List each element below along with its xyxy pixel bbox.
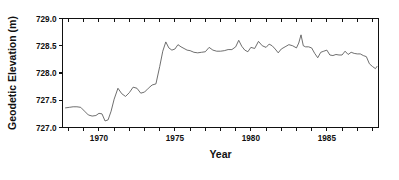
- x-axis-label: Year: [209, 148, 231, 160]
- x-axis-ticks-bottom: [69, 128, 373, 132]
- x-tick-label: 1975: [166, 134, 185, 143]
- y-tick-label: 727.5: [36, 96, 57, 105]
- x-tick-label: 1985: [318, 134, 337, 143]
- y-axis-tick-labels: 727.0727.5728.0728.5729.0: [36, 15, 57, 133]
- data-line-geodetic-elevation: [66, 35, 377, 121]
- x-tick-label: 1980: [242, 134, 261, 143]
- x-tick-label: 1970: [90, 134, 109, 143]
- x-axis-tick-labels: 1970197519801985: [90, 134, 337, 143]
- y-axis-label: Geodetic Elevation (m): [6, 16, 18, 130]
- y-tick-label: 728.0: [36, 69, 57, 78]
- data-series-group: [66, 35, 377, 121]
- chart-figure: 727.0727.5728.0728.5729.0 19701975198019…: [0, 0, 399, 180]
- x-axis-ticks-top: [69, 19, 373, 23]
- geodetic-elevation-line-chart: 727.0727.5728.0728.5729.0 19701975198019…: [0, 0, 399, 180]
- y-tick-label: 727.0: [36, 124, 57, 133]
- y-tick-label: 728.5: [36, 42, 57, 51]
- y-tick-label: 729.0: [36, 15, 57, 24]
- plot-frame: [63, 19, 379, 128]
